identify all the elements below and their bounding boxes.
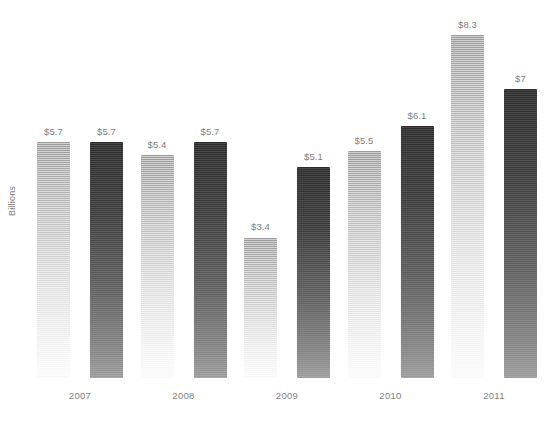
bar-group-2007: $5.7$5.72007 — [37, 0, 123, 430]
plot-area: $5.7$5.72007$5.4$5.72008$3.4$5.12009$5.5… — [0, 0, 553, 430]
bar-2009-light[interactable] — [244, 238, 277, 379]
bar-group-2010: $5.5$6.12010 — [348, 0, 434, 430]
category-label-2007: 2007 — [37, 390, 123, 401]
bar-2011-dark[interactable] — [504, 89, 537, 378]
bar-2008-light[interactable] — [141, 155, 174, 378]
category-label-2008: 2008 — [141, 390, 227, 401]
bar-chart: Billions $5.7$5.72007$5.4$5.72008$3.4$5.… — [0, 0, 553, 430]
bar-value-label-2007-dark: $5.7 — [80, 126, 133, 137]
bar-group-2011: $8.3$72011 — [451, 0, 537, 430]
bar-2007-light[interactable] — [37, 142, 70, 378]
bar-value-label-2008-dark: $5.7 — [184, 126, 237, 137]
bar-value-label-2009-light: $3.4 — [234, 221, 287, 232]
category-label-2010: 2010 — [348, 390, 434, 401]
bar-value-label-2011-light: $8.3 — [441, 19, 494, 30]
bar-group-2008: $5.4$5.72008 — [141, 0, 227, 430]
bar-value-label-2011-dark: $7 — [494, 73, 547, 84]
bar-2007-dark[interactable] — [90, 142, 123, 378]
bar-2009-dark[interactable] — [297, 167, 330, 378]
bar-2011-light[interactable] — [451, 35, 484, 378]
bar-value-label-2010-dark: $6.1 — [391, 110, 444, 121]
category-label-2009: 2009 — [244, 390, 330, 401]
bar-value-label-2010-light: $5.5 — [338, 135, 391, 146]
bar-2010-dark[interactable] — [401, 126, 434, 378]
bar-group-2009: $3.4$5.12009 — [244, 0, 330, 430]
bar-value-label-2008-light: $5.4 — [131, 139, 184, 150]
bar-value-label-2009-dark: $5.1 — [287, 151, 340, 162]
bar-2010-light[interactable] — [348, 151, 381, 378]
category-label-2011: 2011 — [451, 390, 537, 401]
bar-value-label-2007-light: $5.7 — [27, 126, 80, 137]
bar-2008-dark[interactable] — [194, 142, 227, 378]
